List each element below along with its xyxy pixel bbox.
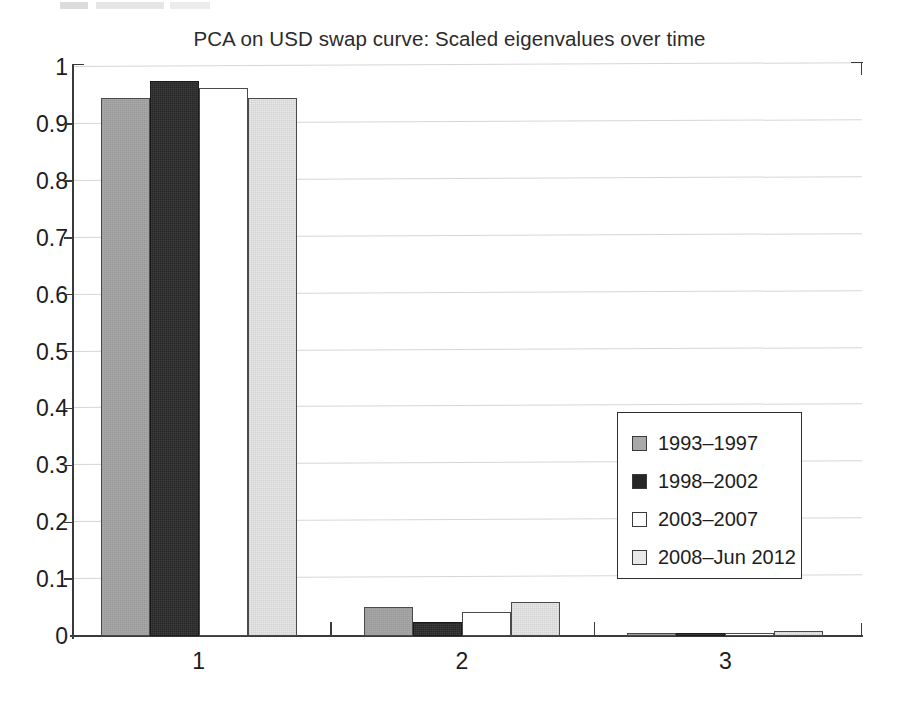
- y-tick-label: 0: [8, 623, 68, 650]
- bar: [364, 607, 413, 636]
- y-tick-label: 1: [8, 54, 68, 81]
- y-tick-label: 0.6: [8, 281, 68, 308]
- legend-item: 1993–1997: [632, 424, 801, 462]
- bar: [511, 602, 560, 636]
- bar: [413, 622, 462, 636]
- y-tick-label: 0.4: [8, 395, 68, 422]
- y-tick-label: 0.1: [8, 566, 68, 593]
- legend-swatch-icon: [632, 512, 647, 527]
- bar: [627, 633, 676, 636]
- x-tick-label: 2: [422, 648, 502, 675]
- legend-item-label: 2008–Jun 2012: [658, 546, 796, 569]
- legend-item-label: 1998–2002: [658, 470, 758, 493]
- y-tick-label: 0.2: [8, 509, 68, 536]
- bar: [248, 98, 297, 636]
- y-tick-label: 0.5: [8, 338, 68, 365]
- legend-item: 2008–Jun 2012: [632, 538, 801, 576]
- plot-frame-stub-top-left: [72, 64, 84, 65]
- legend-swatch-icon: [632, 436, 647, 451]
- legend-item-label: 1993–1997: [658, 432, 758, 455]
- x-tick-label: 1: [159, 648, 239, 675]
- bar: [725, 633, 774, 636]
- bar: [101, 98, 150, 636]
- bar: [150, 81, 199, 636]
- legend-swatch-icon: [632, 474, 647, 489]
- y-tick-label: 0.7: [8, 224, 68, 251]
- chart-legend: 1993–19971998–20022003–20072008–Jun 2012: [617, 412, 802, 579]
- legend-item-label: 2003–2007: [658, 508, 758, 531]
- legend-item: 2003–2007: [632, 500, 801, 538]
- y-tick-label: 0.8: [8, 167, 68, 194]
- chart-figure: PCA on USD swap curve: Scaled eigenvalue…: [0, 0, 899, 706]
- bar: [199, 88, 248, 636]
- bar: [676, 633, 725, 636]
- legend-swatch-icon: [632, 550, 647, 565]
- y-tick-label: 0.9: [8, 110, 68, 137]
- bar: [462, 612, 511, 636]
- bar: [774, 631, 823, 636]
- x-tick-label: 3: [685, 648, 765, 675]
- y-tick-label: 0.3: [8, 452, 68, 479]
- legend-item: 1998–2002: [632, 462, 801, 500]
- chart-title: PCA on USD swap curve: Scaled eigenvalue…: [0, 27, 899, 51]
